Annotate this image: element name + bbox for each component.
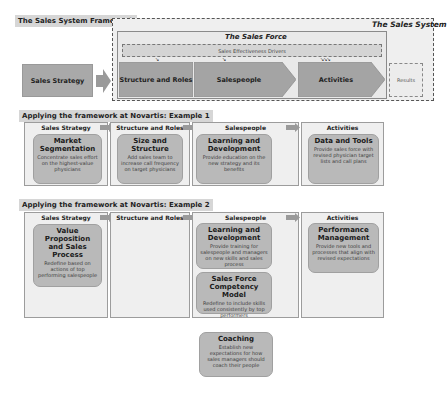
card-desc: Provide training for salespeople and man… [200,243,268,267]
card-title: Learning and Development [200,137,268,153]
card: Learning and Development Provide educati… [196,134,272,184]
column-header: Activities [302,123,383,133]
column-header: Structure and Roles [111,213,189,223]
ex1-col-salespeople: Salespeople Learning and Development Pro… [192,122,299,186]
ex2-col-sales-strategy: Sales Strategy Value Proposition and Sal… [24,212,108,318]
card: Coaching Establish new expectations for … [199,332,273,377]
card-title: Value Proposition and Sales Process [37,227,98,259]
card-desc: Redefine to include skills used consiste… [200,300,268,318]
arrow-right-icon [96,69,111,93]
ex1-col-structure-and-roles: Structure and Roles Size and Structure A… [110,122,190,186]
card-title: Data and Tools [312,137,375,145]
sales-effectiveness-drivers: Sales Effectiveness Drivers [122,44,382,57]
example1-title: Applying the framework at Novartis: Exam… [19,110,213,122]
column-header: Salespeople [193,123,298,133]
card-title: Coaching [203,335,269,343]
card: Learning and Development Provide trainin… [196,223,272,269]
column-header: Salespeople [193,213,298,223]
ex2-col-structure-and-roles: Structure and Roles [110,212,190,318]
ex1-col-activities: Activities Data and Tools Provide sales … [301,122,384,186]
results-box: Results [389,63,423,97]
arrow-right-icon [286,123,300,132]
sales-force-title: The Sales Force [225,33,287,41]
card-desc: Provide sales force with revised physici… [312,146,375,164]
card-desc: Concentrate sales effort on the highest-… [37,154,98,172]
example2-title: Applying the framework at Novartis: Exam… [19,199,213,211]
card-title: Learning and Development [200,226,268,242]
card: Performance Management Provide new tools… [308,223,379,273]
card-desc: Provide new tools and processes that ali… [312,243,375,261]
column-header: Sales Strategy [25,213,107,223]
card-desc: Provide education on the new strategy an… [200,154,268,172]
chevron-structure-and-roles: Structure and Roles [119,62,193,97]
ex1-col-sales-strategy: Sales Strategy Market Segmentation Conce… [24,122,108,186]
card: Market Segmentation Concentrate sales ef… [33,134,102,184]
column-header: Activities [302,213,383,223]
card: Value Proposition and Sales Process Rede… [33,224,102,287]
chevron-label: Structure and Roles [119,62,193,97]
card-title: Sales Force Competency Model [200,275,268,299]
card: Data and Tools Provide sales force with … [308,134,379,184]
card-title: Market Segmentation [37,137,98,153]
ex2-col-salespeople: Salespeople Learning and Development Pro… [192,212,299,318]
column-header: Sales Strategy [25,123,107,133]
chevron-label: Activities [298,62,374,97]
sales-strategy-box: Sales Strategy [22,64,93,97]
card-desc: Establish new expectations for how sales… [203,344,269,368]
column-header: Structure and Roles [111,123,189,133]
chevron-label: Salespeople [194,62,284,97]
ex2-col-activities: Activities Performance Management Provid… [301,212,384,318]
card: Sales Force Competency Model Redefine to… [196,272,272,314]
sales-system-title: The Sales System [372,20,447,29]
card-desc: Add sales team to increase call frequenc… [121,154,179,172]
chevron-activities: Activities [298,62,385,97]
card: Size and Structure Add sales team to inc… [117,134,183,184]
card-title: Size and Structure [121,137,179,153]
arrow-right-icon [286,213,300,222]
chevron-salespeople: Salespeople [194,62,296,97]
card-title: Performance Management [312,226,375,242]
card-desc: Redefine based on actions of top perform… [37,260,98,278]
